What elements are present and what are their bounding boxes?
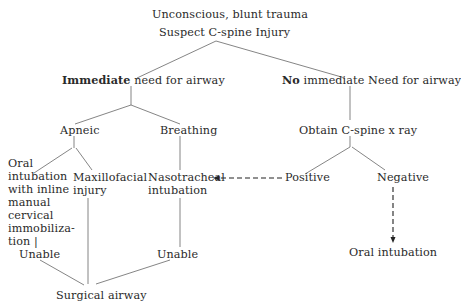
obtain-xray-node: Obtain C-spine x ray: [299, 124, 417, 137]
unable-right-node: Unable: [157, 248, 198, 261]
connector-to-negative: [352, 147, 385, 170]
oral-inline-line: manual: [8, 196, 75, 209]
root-line1: Unconscious, blunt trauma: [152, 8, 308, 21]
breathing-node: Breathing: [160, 124, 217, 137]
immediate-rest: need for airway: [131, 74, 225, 87]
immediate-need-node: Immediate need for airway: [62, 74, 225, 87]
connector-to-maxillofacial: [76, 148, 92, 170]
negative-node: Negative: [377, 171, 429, 184]
no-immediate-need-node: No immediate Need for airway: [282, 74, 461, 87]
oral-inline-line: with inline: [8, 183, 75, 196]
connector-root-to-no-immediate: [216, 41, 345, 78]
maxillofacial-line: Maxillofacial: [73, 171, 147, 184]
oral-inline-line: intubation: [8, 170, 75, 183]
immediate-bold: Immediate: [62, 73, 131, 87]
oral-inline-node: Oral intubation with inline manual cervi…: [8, 157, 75, 248]
connector-unable-left-to-surgical: [40, 260, 84, 285]
maxillofacial-line: injury: [73, 184, 147, 197]
oral-inline-line: immobiliza-: [8, 222, 75, 235]
unable-left-node: Unable: [19, 248, 60, 261]
oral-intubation-node: Oral intubation: [349, 246, 437, 259]
connector-to-apneic: [75, 105, 131, 124]
nasotracheal-node: Nasotracheal intubation: [148, 171, 225, 197]
nasotracheal-line: intubation: [148, 184, 225, 197]
connector-unable-right-to-surgical: [96, 260, 170, 284]
oral-inline-line: cervical: [8, 209, 75, 222]
maxillofacial-node: Maxillofacial injury: [73, 171, 147, 197]
root-line2: Suspect C-spine Injury: [159, 26, 290, 39]
positive-node: Positive: [285, 171, 330, 184]
connector-root-to-immediate: [137, 41, 216, 78]
no-bold: No: [282, 73, 300, 87]
surgical-airway-node: Surgical airway: [56, 289, 147, 302]
nasotracheal-line: Nasotracheal: [148, 171, 225, 184]
oral-inline-line: Oral: [8, 157, 75, 170]
oral-inline-line: tion |: [8, 235, 75, 248]
connector-to-breathing: [131, 105, 180, 124]
connector-to-positive: [305, 147, 350, 174]
apneic-node: Apneic: [60, 124, 100, 137]
arrowhead-down-icon: [391, 237, 396, 243]
no-immediate-rest: immediate Need for airway: [300, 74, 461, 87]
